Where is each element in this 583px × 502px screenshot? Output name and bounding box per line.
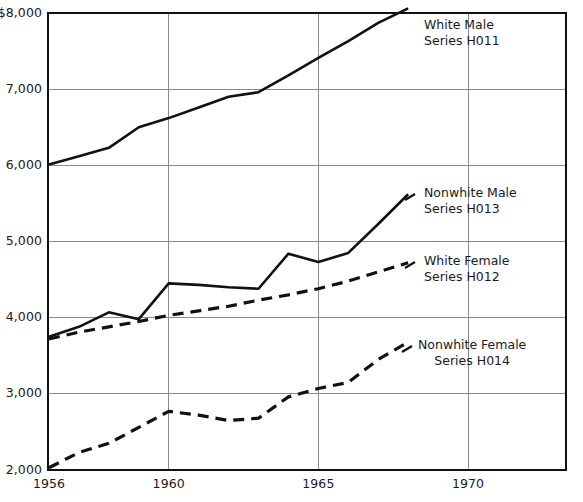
series-label-white-male: White Male Series H011 [424,17,500,48]
series-line-nonwhite-male [49,194,408,336]
x-tick-label-1960: 1960 [139,478,199,491]
series-label-white-male-name: White Male [424,17,500,33]
y-tick-label-2000: 2,000 [6,464,42,477]
series-label-nonwhite-male-code: Series H013 [424,201,517,217]
series-lines [49,8,415,467]
x-tick-label-1965: 1965 [288,478,348,491]
y-tick-label-3000: 3,000 [6,387,42,400]
chart-container: 2,000 3,000 4,000 5,000 6,000 7,000 $8,0… [0,0,583,502]
y-tick-label-8000: $8,000 [0,7,42,20]
series-label-white-male-code: Series H011 [424,33,500,49]
x-tick-label-1970: 1970 [438,478,498,491]
series-label-nonwhite-male-name: Nonwhite Male [424,185,517,201]
x-tick-label-1956: 1956 [19,478,79,491]
series-label-nonwhite-female: Nonwhite Female Series H014 [418,337,526,368]
series-label-nonwhite-male: Nonwhite Male Series H013 [424,185,517,216]
series-label-nonwhite-female-name: Nonwhite Female [418,337,526,353]
y-tick-label-7000: 7,000 [6,83,42,96]
y-tick-label-4000: 4,000 [6,311,42,324]
series-label-nonwhite-female-code: Series H014 [418,353,526,369]
series-label-white-female-name: White Female [424,253,510,269]
series-label-white-female-code: Series H012 [424,269,510,285]
series-line-nonwhite-female [49,342,408,468]
series-line-white-female [49,263,408,339]
chart-plot-area [0,0,583,502]
series-line-white-male [49,8,408,164]
series-label-white-female: White Female Series H012 [424,253,510,284]
gridlines [48,13,566,470]
y-tick-label-6000: 6,000 [6,159,42,172]
y-tick-label-5000: 5,000 [6,235,42,248]
